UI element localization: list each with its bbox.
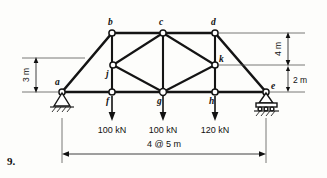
joint-label-k: k <box>219 54 224 64</box>
truss-figure: a b c d e f g h j k <box>0 0 327 178</box>
load-labels: 100 kN 100 kN 120 kN <box>98 125 230 135</box>
joint-label-b: b <box>108 17 113 27</box>
dimension-right-offset: 2 m <box>270 66 307 92</box>
dimension-label-right-height: 4 m <box>273 42 283 56</box>
joint-f <box>109 89 115 95</box>
joint-label-c: c <box>159 17 164 27</box>
joint-label-j: j <box>104 69 109 79</box>
roller-support-e <box>254 93 279 116</box>
load-arrows <box>109 96 219 121</box>
pin-support-a <box>50 93 74 112</box>
load-label-h: 120 kN <box>201 125 230 135</box>
joint-h <box>212 89 218 95</box>
problem-number: 9. <box>7 155 16 167</box>
joint-label-d: d <box>211 17 216 27</box>
member-c-j <box>113 33 163 65</box>
joint-k <box>212 62 218 68</box>
joint-j <box>110 62 116 68</box>
joint-label-f: f <box>106 96 110 106</box>
joint-label-a: a <box>55 77 60 87</box>
member-k-g <box>163 65 215 92</box>
member-a-b <box>62 33 112 92</box>
joint-d <box>212 30 218 36</box>
load-label-g: 100 kN <box>149 125 178 135</box>
joint-b <box>109 30 115 36</box>
member-j-g <box>113 65 163 92</box>
joint-g <box>160 89 167 96</box>
joint-label-e: e <box>271 81 276 91</box>
truss-diagram-canvas: a b c d e f g h j k <box>0 0 327 178</box>
dimension-label-left-height: 3 m <box>21 68 31 82</box>
dimension-label-right-offset: 2 m <box>293 75 307 85</box>
member-c-k <box>163 33 215 65</box>
joint-label-h: h <box>209 96 214 106</box>
dimension-label-span: 4 @ 5 m <box>147 139 181 149</box>
load-label-f: 100 kN <box>98 125 127 135</box>
truss-members <box>62 33 266 92</box>
joint-label-g: g <box>156 96 162 106</box>
joint-c <box>160 30 166 36</box>
load-arrow-f <box>109 96 116 121</box>
dimension-right-height: 4 m <box>219 32 305 66</box>
